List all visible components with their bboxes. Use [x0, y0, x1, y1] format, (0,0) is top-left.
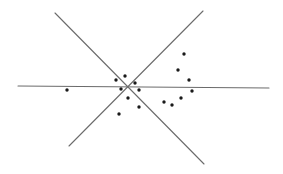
data-point: [187, 78, 190, 81]
data-point: [190, 89, 193, 92]
data-point: [114, 78, 117, 81]
data-point: [162, 100, 165, 103]
data-point: [133, 81, 136, 84]
data-point: [176, 68, 179, 71]
data-point: [179, 96, 182, 99]
data-point: [137, 88, 140, 91]
line-arrangement-diagram: [0, 0, 283, 174]
data-point: [126, 96, 129, 99]
data-point: [170, 103, 173, 106]
data-point: [65, 88, 68, 91]
data-point: [123, 74, 126, 77]
data-point: [119, 87, 122, 90]
data-point: [182, 52, 185, 55]
data-point: [137, 105, 140, 108]
data-point: [117, 112, 120, 115]
